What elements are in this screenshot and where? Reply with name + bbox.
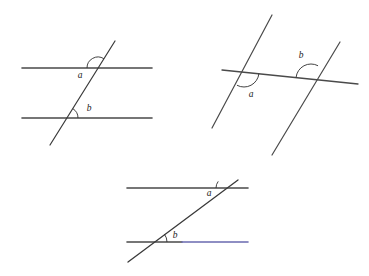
angle-b-label: b xyxy=(87,103,92,113)
two-horizontal-parallels-with-steep-transversal: ab xyxy=(127,180,248,262)
angle-a-arc xyxy=(216,181,218,188)
angle-a-label: a xyxy=(249,89,254,99)
transversal-line xyxy=(222,70,358,84)
angle-b-arc xyxy=(296,64,318,77)
angle-b-arc xyxy=(164,234,167,242)
transversal-line xyxy=(128,180,238,262)
figure-canvas: ababab xyxy=(0,0,369,276)
two-slanted-parallels-with-near-horizontal-transversal: ab xyxy=(212,15,358,155)
angle-b-label: b xyxy=(173,230,178,240)
angle-a-label: a xyxy=(78,70,83,80)
figures-layer: ababab xyxy=(22,15,358,262)
angle-a-label: a xyxy=(207,188,212,198)
transversal-line xyxy=(50,41,115,145)
two-horizontal-parallels-with-transversal: ab xyxy=(22,41,152,145)
angle-b-label: b xyxy=(299,50,304,60)
right-parallel-line xyxy=(272,42,340,155)
angle-b-arc xyxy=(73,109,78,118)
geometry-figures-svg: ababab xyxy=(0,0,369,276)
